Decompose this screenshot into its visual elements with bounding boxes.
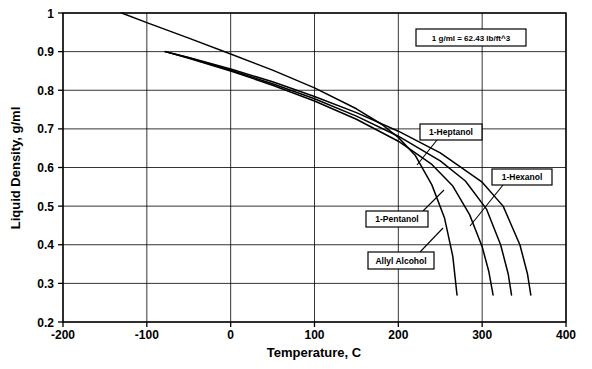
callout-allyl-alcohol-label: Allyl Alcohol [375,256,426,266]
series-line-1-pentanol [165,52,493,295]
y-axis-tick-labels: 0.20.30.40.50.60.70.80.91 [37,7,54,330]
callout-1-heptanol-label: 1-Heptanol [429,127,473,137]
x-tick-label: 100 [304,328,324,342]
callout-leader-lines [417,140,503,252]
callout-1-pentanol-label: 1-Pentanol [375,214,418,224]
gridlines [63,13,566,322]
unit-note-label: 1 g/ml = 62.43 lb/ft^3 [432,34,511,43]
y-tick-label: 0.9 [37,45,54,59]
liquid-density-line-chart: 1-Heptanol1-Hexanol1-PentanolAllyl Alcoh… [0,0,592,369]
leader-line-allyl-alcohol [420,228,443,252]
callout-1-hexanol-label: 1-Hexanol [502,172,543,182]
x-tick-label: -100 [135,328,159,342]
y-tick-label: 1 [47,7,54,21]
chart-container: 1-Heptanol1-Hexanol1-PentanolAllyl Alcoh… [0,0,592,369]
x-tick-label: 400 [556,328,576,342]
series-line-1-hexanol [165,52,511,295]
y-tick-label: 0.6 [37,161,54,175]
unit-conversion-note: 1 g/ml = 62.43 lb/ft^3 [416,29,526,46]
x-tick-label: 200 [388,328,408,342]
data-series-group [122,13,531,295]
x-axis-tick-labels: -200-1000100200300400 [51,328,576,342]
y-tick-label: 0.7 [37,122,54,136]
x-axis-title: Temperature, C [267,345,362,360]
x-tick-label: 0 [227,328,234,342]
x-tick-label: 300 [472,328,492,342]
y-tick-label: 0.8 [37,84,54,98]
y-tick-label: 0.4 [37,238,54,252]
y-tick-label: 0.2 [37,316,54,330]
y-tick-label: 0.3 [37,277,54,291]
y-axis-title: Liquid Density, g/ml [8,107,23,230]
series-line-1-heptanol [165,52,531,295]
x-tick-label: -200 [51,328,75,342]
y-tick-label: 0.5 [37,200,54,214]
leader-line-1-hexanol [470,185,503,226]
